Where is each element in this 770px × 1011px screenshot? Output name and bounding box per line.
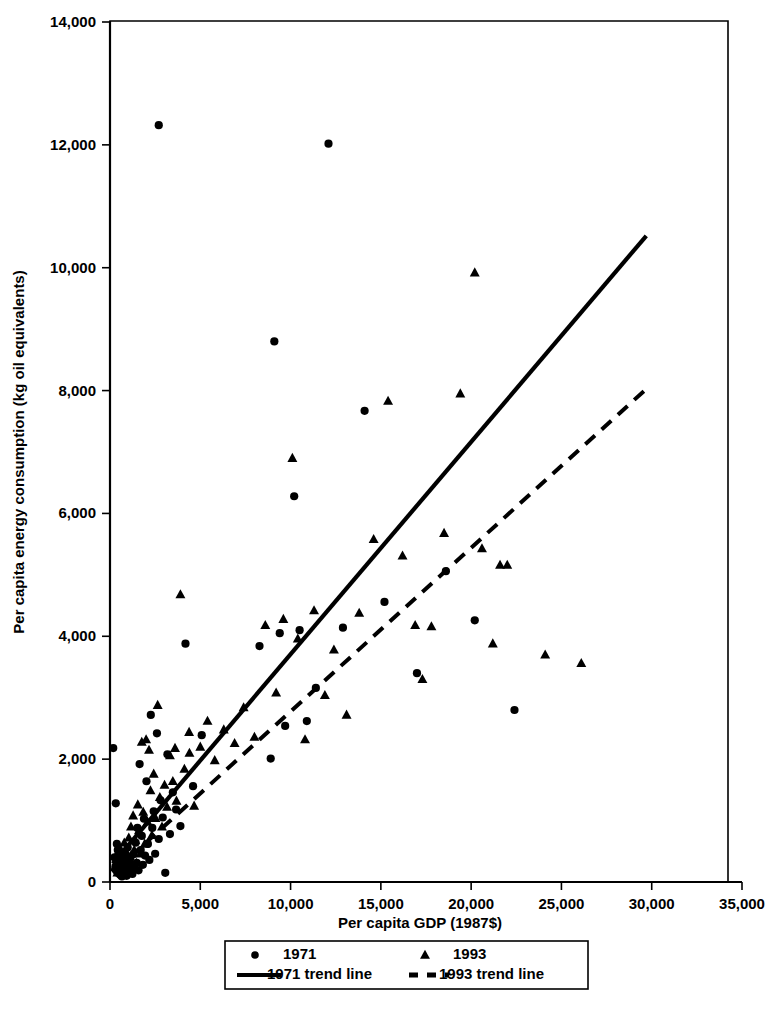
scatter-chart: 02,0004,0006,0008,00010,00012,00014,000 …	[0, 0, 770, 1011]
data-point-1993	[439, 528, 449, 537]
data-point-1971	[142, 777, 150, 785]
x-tick-label: 15,000	[358, 895, 404, 912]
series-1993-points	[110, 267, 587, 879]
data-point-1993	[149, 769, 159, 778]
x-axis-title: Per capita GDP (1987$)	[338, 914, 502, 931]
data-point-1993	[488, 638, 498, 647]
data-point-1993	[210, 755, 220, 764]
data-point-1971	[471, 616, 479, 624]
data-point-1971	[312, 684, 320, 692]
plot-area-border	[110, 21, 728, 882]
trend-lines-group	[113, 236, 647, 873]
data-point-1993	[410, 620, 420, 629]
data-point-1993	[175, 589, 185, 598]
x-tick-label: 35,000	[719, 895, 765, 912]
data-point-1971	[169, 788, 177, 796]
data-point-1971	[270, 337, 278, 345]
y-tick-label: 8,000	[58, 382, 96, 399]
data-point-1971	[109, 744, 117, 752]
legend-label-1993: 1993	[453, 945, 486, 962]
data-point-1971	[189, 782, 197, 790]
data-point-1971	[442, 567, 450, 575]
data-point-1993	[260, 620, 270, 629]
data-point-1993	[249, 732, 259, 741]
y-tick-label: 2,000	[58, 750, 96, 767]
data-point-1993	[383, 396, 393, 405]
data-point-1971	[276, 629, 284, 637]
data-point-1971	[296, 626, 304, 634]
x-tick-label: 20,000	[448, 895, 494, 912]
data-point-1993	[271, 688, 281, 697]
data-point-1993	[170, 743, 180, 752]
trend-line-1971	[113, 236, 647, 864]
data-point-1993	[540, 649, 550, 658]
data-point-1993	[144, 745, 154, 754]
y-tick-label: 14,000	[50, 13, 96, 30]
data-point-1993	[398, 551, 408, 560]
chart-legend: 197119931971 trend line1993 trend line	[225, 941, 588, 989]
data-point-1971	[181, 640, 189, 648]
data-point-1993	[329, 645, 339, 654]
y-tick-label: 0	[88, 873, 96, 890]
data-point-1993	[168, 776, 178, 785]
data-point-1993	[502, 560, 512, 569]
data-point-1993	[145, 785, 155, 794]
data-point-1993	[426, 621, 436, 630]
x-axis-ticks: 05,00010,00015,00020,00025,00030,00035,0…	[106, 882, 765, 912]
legend-label-trend-1993: 1993 trend line	[439, 965, 544, 982]
data-point-1971	[324, 140, 332, 148]
data-point-1971	[290, 492, 298, 500]
data-point-1993	[171, 796, 181, 805]
data-point-1971	[510, 706, 518, 714]
data-point-1971	[380, 598, 388, 606]
data-point-1971	[339, 624, 347, 632]
data-point-1993	[470, 267, 480, 276]
y-tick-label: 4,000	[58, 627, 96, 644]
data-point-1993	[287, 453, 297, 462]
data-point-1993	[133, 799, 143, 808]
data-point-1971	[172, 805, 180, 813]
y-tick-label: 12,000	[50, 136, 96, 153]
data-point-1993	[477, 543, 487, 552]
data-point-1993	[354, 608, 364, 617]
data-point-1971	[281, 722, 289, 730]
data-point-1971	[413, 669, 421, 677]
data-point-1993	[189, 801, 199, 810]
legend-marker-1971	[251, 951, 259, 959]
data-point-1971	[153, 729, 161, 737]
data-point-1971	[267, 754, 275, 762]
x-tick-label: 30,000	[629, 895, 675, 912]
data-point-1993	[576, 658, 586, 667]
y-axis-title: Per capita energy consumption (kg oil eq…	[10, 270, 27, 633]
x-tick-label: 5,000	[182, 895, 220, 912]
data-point-1993	[230, 738, 240, 747]
y-axis-ticks: 02,0004,0006,0008,00010,00012,00014,000	[50, 13, 110, 890]
data-point-1993	[124, 832, 134, 841]
data-point-1971	[166, 830, 174, 838]
data-point-1993	[455, 388, 465, 397]
data-point-1971	[112, 799, 120, 807]
trend-line-1993	[113, 391, 645, 873]
chart-figure: 02,0004,0006,0008,00010,00012,00014,000 …	[0, 0, 770, 1011]
series-1971-points	[109, 121, 518, 880]
data-point-1971	[151, 850, 159, 858]
data-point-1971	[136, 760, 144, 768]
data-point-1993	[369, 534, 379, 543]
data-point-1971	[155, 121, 163, 129]
data-point-1993	[147, 830, 157, 839]
data-point-1993	[128, 810, 138, 819]
y-tick-label: 6,000	[58, 504, 96, 521]
data-point-1993	[293, 633, 303, 642]
data-point-1993	[342, 710, 352, 719]
data-point-1993	[184, 748, 194, 757]
data-point-1993	[203, 716, 213, 725]
data-point-1971	[303, 717, 311, 725]
legend-label-trend-1971: 1971 trend line	[267, 965, 372, 982]
x-tick-label: 0	[106, 895, 114, 912]
data-point-1993	[300, 734, 310, 743]
data-point-1993	[184, 727, 194, 736]
y-tick-label: 10,000	[50, 259, 96, 276]
x-tick-label: 25,000	[538, 895, 584, 912]
data-point-1993	[195, 742, 205, 751]
data-point-1971	[161, 869, 169, 877]
